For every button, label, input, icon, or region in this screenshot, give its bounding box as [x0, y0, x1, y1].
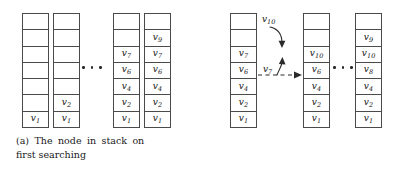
cell-label: v10 — [310, 49, 324, 60]
stack-cell-filled: v4 — [356, 79, 381, 95]
stack-cell-empty — [231, 30, 256, 46]
stack-cell-filled: v7 — [231, 47, 256, 63]
stack-cell-empty — [54, 79, 79, 95]
cell-label: v2 — [62, 98, 71, 109]
stack-cell-filled: v7 — [145, 47, 170, 63]
cell-label: v1 — [31, 114, 40, 125]
cell-label: v4 — [122, 82, 131, 93]
stack-cell-empty — [23, 30, 48, 46]
cell-label: v7 — [122, 49, 131, 60]
stack-cell-empty — [304, 14, 329, 30]
cell-label: v1 — [153, 114, 162, 125]
annotation-label-pop: v7 — [263, 65, 272, 76]
cell-label: v2 — [312, 98, 321, 109]
stack-a1: v1 — [22, 13, 49, 128]
cell-label: v6 — [122, 65, 131, 76]
stack-cell-filled: v4 — [145, 79, 170, 95]
stack-b3: v9v10v8v4v2v1 — [355, 13, 382, 128]
stack-cell-filled: v1 — [23, 112, 48, 127]
cell-label: v2 — [239, 98, 248, 109]
cell-label: v7 — [153, 49, 162, 60]
stack-cell-empty — [23, 63, 48, 79]
stack-cell-filled: v1 — [356, 112, 381, 127]
stack-cell-empty — [54, 14, 79, 30]
stack-cell-empty — [23, 79, 48, 95]
cell-label: v10 — [262, 14, 275, 24]
cell-label: v2 — [122, 98, 131, 109]
stack-cell-empty — [23, 14, 48, 30]
caption-a-line-1: (a) The node in stack on — [16, 134, 194, 148]
ellipsis-dot — [91, 66, 94, 69]
stack-cell-filled: v9 — [145, 30, 170, 46]
stack-cell-filled: v1 — [114, 112, 139, 127]
stack-cell-empty — [54, 63, 79, 79]
stack-cell-filled: v2 — [356, 95, 381, 111]
stack-cell-empty — [114, 30, 139, 46]
stack-b1: v7v6v4v2v1 — [230, 13, 257, 128]
stack-cell-filled: v6 — [231, 63, 256, 79]
cell-label: v9 — [364, 33, 373, 44]
stack-cell-filled: v2 — [231, 95, 256, 111]
stack-cell-filled: v1 — [231, 112, 256, 127]
stack-cell-empty — [23, 95, 48, 111]
cell-label: v2 — [153, 98, 162, 109]
stack-cell-filled: v2 — [145, 95, 170, 111]
cell-label: v4 — [364, 82, 373, 93]
cell-label: v1 — [239, 114, 248, 125]
ellipsis-dot — [350, 66, 353, 69]
panel-second-searching: v7v6v4v2v1 v10v6v4v2v1 v9v10v8v4v2v1 — [200, 0, 400, 173]
cell-label: v1 — [364, 114, 373, 125]
stack-cell-filled: v2 — [54, 95, 79, 111]
caption-panel-a: (a) The node in stack on first searching — [16, 134, 194, 161]
ellipsis-b — [333, 66, 353, 69]
stack-cell-empty — [54, 30, 79, 46]
stack-cell-filled: v6 — [304, 63, 329, 79]
stack-cell-empty — [145, 14, 170, 30]
cell-label: v8 — [364, 65, 373, 76]
stack-cell-filled: v4 — [231, 79, 256, 95]
stack-cell-filled: v4 — [114, 79, 139, 95]
cell-label: v2 — [364, 98, 373, 109]
ellipsis-a — [82, 66, 102, 69]
stack-cell-empty — [304, 30, 329, 46]
stack-cell-empty — [356, 14, 381, 30]
stack-cell-empty — [23, 47, 48, 63]
stack-cell-filled: v6 — [145, 63, 170, 79]
cell-label: v6 — [153, 65, 162, 76]
stack-cell-filled: v7 — [114, 47, 139, 63]
cell-label: v7 — [263, 64, 272, 74]
cell-label: v1 — [122, 114, 131, 125]
stack-cell-filled: v1 — [145, 112, 170, 127]
cell-label: v4 — [239, 82, 248, 93]
stack-cell-empty — [114, 14, 139, 30]
cell-label: v1 — [312, 114, 321, 125]
panel-first-searching: v1 v2v1 v7v6v4v2v1 v9v7v6v4v2v1 (a) The … — [0, 0, 200, 173]
cell-label: v6 — [239, 65, 248, 76]
ellipsis-dot — [333, 66, 336, 69]
stack-a2: v2v1 — [53, 13, 80, 128]
stack-cell-filled: v2 — [304, 95, 329, 111]
stack-b2: v10v6v4v2v1 — [303, 13, 330, 128]
stack-cell-empty — [54, 47, 79, 63]
stack-cell-filled: v6 — [114, 63, 139, 79]
cell-label: v4 — [153, 82, 162, 93]
ellipsis-dot — [342, 66, 345, 69]
stack-a3: v7v6v4v2v1 — [113, 13, 140, 128]
annotation-label-push: v10 — [262, 15, 275, 26]
cell-label: v6 — [312, 65, 321, 76]
cell-label: v10 — [362, 49, 376, 60]
cell-label: v4 — [312, 82, 321, 93]
stack-cell-filled: v4 — [304, 79, 329, 95]
stack-cell-filled: v9 — [356, 30, 381, 46]
caption-a-line-2: first searching — [16, 148, 194, 162]
stack-cell-filled: v10 — [304, 47, 329, 63]
stack-cell-filled: v1 — [304, 112, 329, 127]
figure-root: v1 v2v1 v7v6v4v2v1 v9v7v6v4v2v1 (a) The … — [0, 0, 400, 173]
stack-cell-filled: v2 — [114, 95, 139, 111]
ellipsis-dot — [82, 66, 85, 69]
ellipsis-dot — [99, 66, 102, 69]
stack-cell-filled: v10 — [356, 47, 381, 63]
cell-label: v1 — [62, 114, 71, 125]
cell-label: v7 — [239, 49, 248, 60]
stack-cell-filled: v1 — [54, 112, 79, 127]
